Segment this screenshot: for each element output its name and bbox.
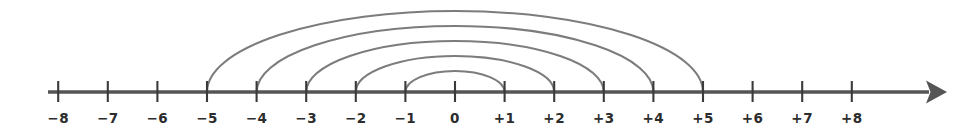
tick-label--4: −4 (246, 110, 268, 126)
tick-label-6: +6 (742, 110, 764, 126)
tick-label--3: −3 (295, 110, 317, 126)
tick-label--1: −1 (395, 110, 417, 126)
number-line-figure: −8−7−6−5−4−3−2−10+1+2+3+4+5+6+7+8 (0, 0, 959, 134)
tick-label-8: +8 (841, 110, 863, 126)
tick-label-0: 0 (450, 110, 460, 126)
number-line-svg: −8−7−6−5−4−3−2−10+1+2+3+4+5+6+7+8 (0, 0, 959, 134)
tick-label-group: −8−7−6−5−4−3−2−10+1+2+3+4+5+6+7+8 (47, 110, 862, 126)
tick-label--7: −7 (97, 110, 119, 126)
axis-group (48, 81, 947, 104)
arc-group (207, 11, 703, 92)
axis-arrow-head (926, 81, 947, 104)
tick-label--8: −8 (47, 110, 69, 126)
tick-label--6: −6 (147, 110, 169, 126)
tick-label-5: +5 (692, 110, 714, 126)
tick-label--2: −2 (345, 110, 367, 126)
tick-label-7: +7 (791, 110, 813, 126)
tick-label-1: +1 (494, 110, 516, 126)
tick-label-2: +2 (543, 110, 565, 126)
tick-label-3: +3 (593, 110, 615, 126)
arc-5 (207, 11, 703, 92)
tick-label-4: +4 (643, 110, 665, 126)
tick-label--5: −5 (196, 110, 218, 126)
